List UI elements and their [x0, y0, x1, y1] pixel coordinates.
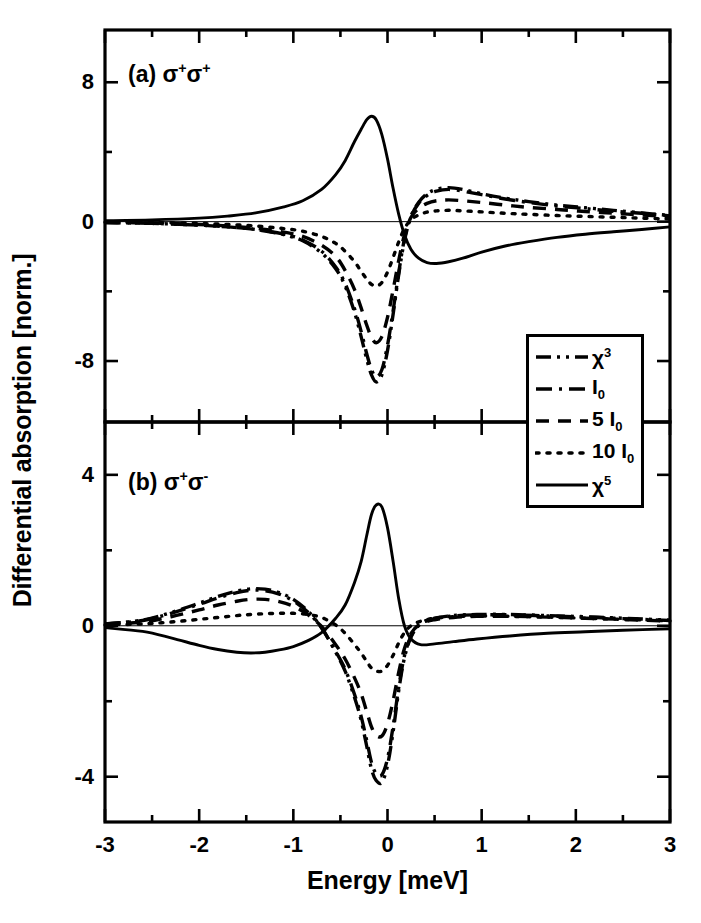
legend-label: χ3 — [592, 346, 611, 368]
x-tick-label: 2 — [570, 832, 582, 858]
x-tick-label: -1 — [284, 832, 304, 858]
x-tick-label: 1 — [476, 832, 488, 858]
series-line — [105, 504, 670, 653]
y-tick-label: -8 — [36, 348, 94, 374]
legend-line-sample — [535, 382, 589, 396]
legend-line-sample — [535, 446, 589, 460]
legend-label: χ5 — [592, 474, 611, 496]
panel-b-label: (b) σ+σ- — [128, 468, 208, 496]
series-line — [105, 116, 670, 263]
y-tick-label: 0 — [36, 613, 94, 639]
legend-label: I0 — [592, 376, 605, 401]
legend-rows: χ3I05 I010 I0χ5 — [529, 337, 641, 505]
legend-item: 10 I0 — [529, 438, 641, 468]
legend-box: χ3I05 I010 I0χ5 — [526, 334, 644, 508]
legend-line-sample — [535, 350, 589, 364]
x-tick-label: 0 — [381, 832, 393, 858]
y-tick-label: 8 — [36, 69, 94, 95]
y-tick-label: 0 — [36, 209, 94, 235]
legend-line-sample — [535, 414, 589, 428]
legend-item: χ3 — [529, 342, 641, 372]
x-tick-label: -2 — [189, 832, 209, 858]
legend-item: 5 I0 — [529, 406, 641, 436]
legend-item: I0 — [529, 374, 641, 404]
legend-line-sample — [535, 478, 589, 492]
legend-label: 5 I0 — [592, 408, 623, 433]
y-tick-label: -4 — [36, 764, 94, 790]
figure-root: Differential absorption [norm.] -3-2-101… — [0, 0, 701, 923]
panel-a-label: (a) σ+σ+ — [128, 60, 211, 88]
x-tick-label: 3 — [664, 832, 676, 858]
x-tick-label: -3 — [95, 832, 115, 858]
legend-label: 10 I0 — [592, 440, 634, 465]
panel-b-curves — [105, 504, 670, 783]
y-tick-label: 4 — [36, 462, 94, 488]
x-axis-title: Energy [meV] — [105, 866, 670, 895]
legend-item: χ5 — [529, 470, 641, 500]
